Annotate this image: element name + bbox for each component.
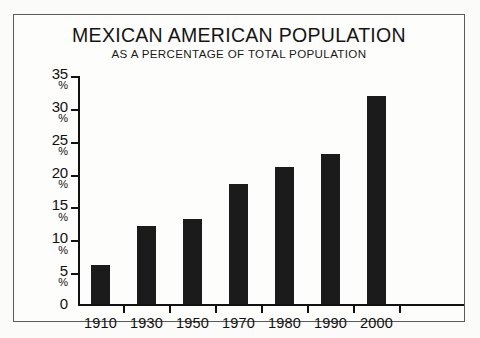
x-axis-tick bbox=[169, 305, 171, 313]
y-axis-tick bbox=[71, 109, 80, 111]
bar-1980 bbox=[275, 167, 294, 304]
y-axis-label-value: 0 bbox=[34, 297, 68, 311]
x-axis-tick bbox=[307, 305, 309, 313]
title-block: MEXICAN AMERICAN POPULATION AS A PERCENT… bbox=[14, 25, 464, 60]
y-axis-label: 25 % bbox=[34, 133, 68, 157]
plot-area: 35 % 30 % 25 % 20 % 15 % 10 % 5 bbox=[78, 76, 464, 306]
y-axis-tick bbox=[71, 142, 80, 144]
y-axis-label-unit: % bbox=[34, 179, 68, 189]
x-axis-tick bbox=[123, 305, 125, 313]
x-axis-tick bbox=[399, 305, 401, 313]
bar-1990 bbox=[321, 154, 340, 304]
y-axis-tick bbox=[71, 76, 80, 78]
y-axis-tick bbox=[71, 240, 80, 242]
y-axis-label-unit: % bbox=[34, 80, 68, 90]
x-axis-tick bbox=[261, 305, 263, 313]
x-axis-tick bbox=[215, 305, 217, 313]
y-axis-label: 10 % bbox=[34, 231, 68, 255]
y-axis-label-unit: % bbox=[34, 113, 68, 123]
bar-1950 bbox=[183, 219, 202, 304]
y-axis-label: 20 % bbox=[34, 166, 68, 190]
bar-1970 bbox=[229, 184, 248, 305]
y-axis-label-unit: % bbox=[34, 212, 68, 222]
y-axis-tick bbox=[71, 207, 80, 209]
y-axis-label: 35 % bbox=[34, 67, 68, 91]
y-axis-label: 0 bbox=[34, 297, 68, 310]
chart-title: MEXICAN AMERICAN POPULATION bbox=[14, 25, 464, 45]
y-axis-label: 5 % bbox=[34, 264, 68, 288]
y-axis-label: 15 % bbox=[34, 198, 68, 222]
y-axis-label: 30 % bbox=[34, 100, 68, 124]
y-axis-label-unit: % bbox=[34, 146, 68, 156]
x-axis-label: 2000 bbox=[347, 315, 407, 331]
bar-2000 bbox=[367, 96, 386, 304]
x-axis-line bbox=[78, 304, 464, 306]
y-axis-label-unit: % bbox=[34, 245, 68, 255]
y-axis-tick bbox=[71, 273, 80, 275]
y-axis-label-unit: % bbox=[34, 277, 68, 287]
x-axis-tick bbox=[353, 305, 355, 313]
bar-1910 bbox=[91, 265, 110, 304]
y-axis-tick bbox=[71, 175, 80, 177]
chart-subtitle: AS A PERCENTAGE OF TOTAL POPULATION bbox=[14, 47, 464, 60]
bar-1930 bbox=[137, 226, 156, 304]
chart-frame: MEXICAN AMERICAN POPULATION AS A PERCENT… bbox=[13, 14, 465, 322]
